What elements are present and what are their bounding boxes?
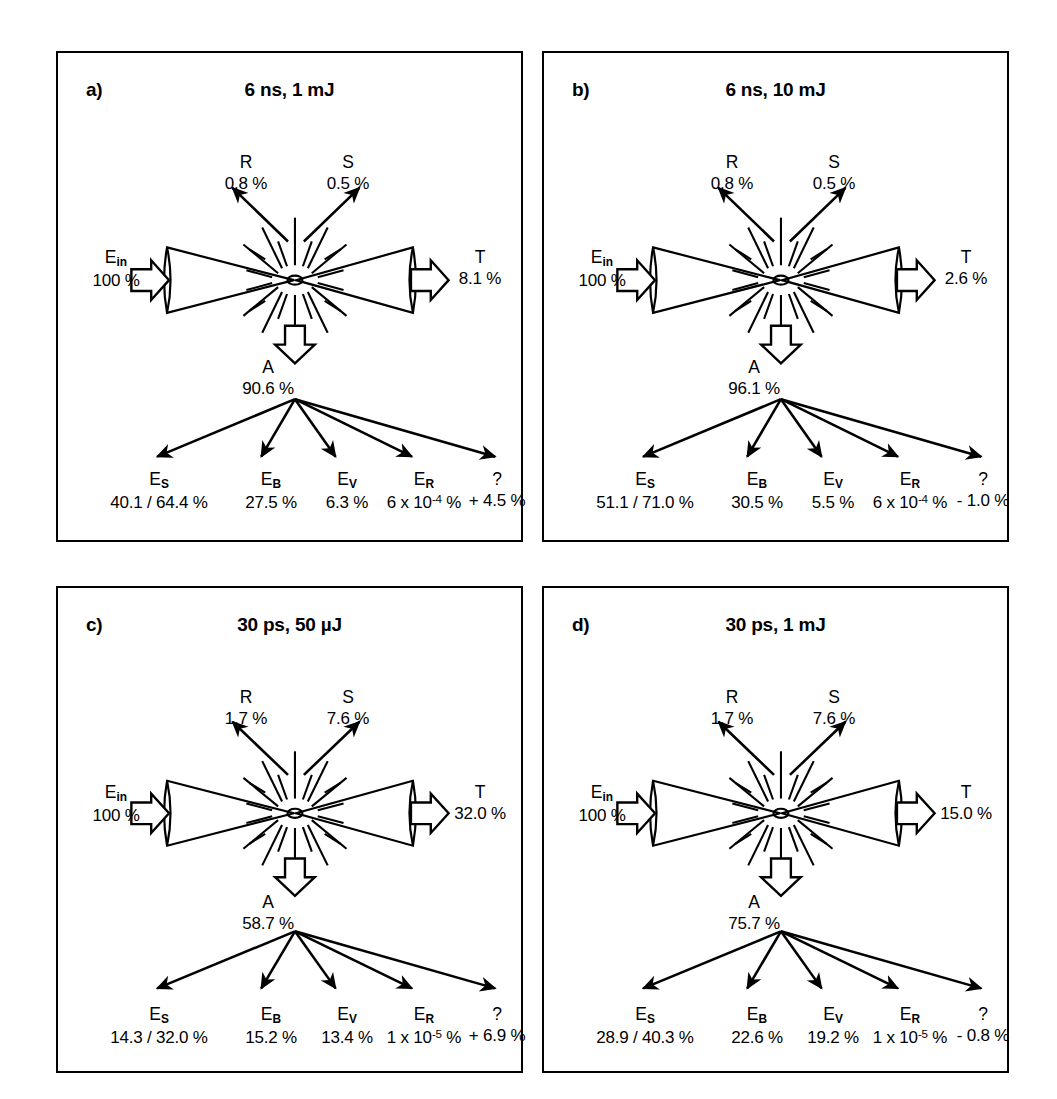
fanout-arrow-eb (747, 931, 781, 988)
input-value: 100 % (68, 270, 164, 292)
absorption-symbol: A (699, 891, 809, 913)
fanout-arrow-unknown (295, 399, 495, 457)
label-channel-unknown: ? + 4.5 % (466, 468, 528, 512)
scatter-symbol: S (308, 151, 388, 173)
panel-title: 6 ns, 10 mJ (544, 79, 1007, 101)
reflection-symbol: R (206, 686, 286, 708)
fanout-arrow-er (295, 399, 412, 457)
fanout-arrow-eb (261, 931, 295, 988)
fanout-arrow-er (295, 931, 412, 988)
reflection-value: 1.7 % (206, 708, 286, 730)
focused-beam-hourglass-icon (164, 781, 416, 846)
label-channel-er: ER 6 x 10-4 % (858, 468, 962, 514)
plasma-starburst-icon (729, 218, 832, 343)
channel-value: - 1.0 % (952, 490, 1014, 512)
panel-d: d) 30 ps, 1 mJ (542, 586, 1009, 1073)
scatter-arrow (790, 188, 846, 242)
absorption-value: 75.7 % (699, 913, 809, 935)
label-reflection: R 1.7 % (692, 686, 772, 730)
fanout-arrow-es (643, 399, 781, 457)
label-input-energy: Ein 100 % (554, 246, 650, 292)
input-symbol: Ein (554, 781, 650, 805)
label-absorption: A 96.1 % (699, 356, 809, 400)
channel-value: 40.1 / 64.4 % (96, 492, 222, 514)
focused-beam-hourglass-icon (650, 781, 902, 846)
fanout-arrow-er (781, 399, 898, 457)
channel-symbol: ? (466, 1003, 528, 1025)
fanout-arrow-unknown (295, 931, 495, 988)
label-channel-eb: EB 15.2 % (230, 1003, 312, 1049)
reflection-symbol: R (692, 151, 772, 173)
label-channel-es: ES 51.1 / 71.0 % (582, 468, 708, 514)
channel-symbol: EB (716, 1003, 798, 1027)
channel-value: 22.6 % (716, 1027, 798, 1049)
panel-title: 6 ns, 1 mJ (58, 79, 521, 101)
figure-canvas: a) 6 ns, 1 mJ (0, 0, 1057, 1099)
focused-beam-hourglass-icon (650, 247, 902, 312)
label-channel-eb: EB 27.5 % (230, 468, 312, 514)
label-input-energy: Ein 100 % (554, 781, 650, 827)
panel-graphics (544, 588, 1007, 1071)
input-value: 100 % (68, 805, 164, 827)
scatter-value: 0.5 % (308, 173, 388, 195)
fanout-arrow-ev (295, 931, 336, 988)
label-scatter: S 7.6 % (308, 686, 388, 730)
channel-value: 30.5 % (716, 492, 798, 514)
transmission-value: 32.0 % (440, 803, 520, 825)
scatter-value: 0.5 % (794, 173, 874, 195)
channel-symbol: ES (582, 1003, 708, 1027)
channel-symbol: ES (96, 468, 222, 492)
scatter-symbol: S (308, 686, 388, 708)
plasma-starburst-icon (243, 218, 346, 343)
label-channel-er: ER 1 x 10-5 % (858, 1003, 962, 1049)
channel-value: 1 x 10-5 % (858, 1027, 962, 1049)
label-transmission: T 2.6 % (926, 246, 1006, 290)
label-reflection: R 1.7 % (206, 686, 286, 730)
label-channel-er: ER 6 x 10-4 % (372, 468, 476, 514)
plasma-starburst-icon (729, 751, 832, 875)
channel-symbol: ER (372, 1003, 476, 1027)
panel-c: c) 30 ps, 50 µJ (56, 586, 523, 1073)
absorption-value: 90.6 % (213, 378, 323, 400)
transmission-value: 8.1 % (440, 268, 520, 290)
transmission-symbol: T (926, 246, 1006, 268)
focal-spot (288, 276, 303, 285)
transmission-symbol: T (440, 781, 520, 803)
reflection-arrow (718, 188, 774, 242)
scatter-value: 7.6 % (794, 708, 874, 730)
channel-symbol: ER (858, 468, 962, 492)
focal-spot (774, 809, 789, 818)
fanout-arrow-eb (747, 399, 781, 457)
absorption-symbol: A (213, 891, 323, 913)
reflection-value: 0.8 % (206, 173, 286, 195)
channel-value: 1 x 10-5 % (372, 1027, 476, 1049)
channel-symbol: EB (230, 1003, 312, 1027)
reflection-value: 0.8 % (692, 173, 772, 195)
input-symbol: Ein (68, 781, 164, 805)
reflection-value: 1.7 % (692, 708, 772, 730)
label-channel-es: ES 28.9 / 40.3 % (582, 1003, 708, 1049)
absorption-symbol: A (699, 356, 809, 378)
transmission-value: 15.0 % (926, 803, 1006, 825)
label-channel-eb: EB 30.5 % (716, 468, 798, 514)
transmission-value: 2.6 % (926, 268, 1006, 290)
channel-value: + 4.5 % (466, 490, 528, 512)
label-input-energy: Ein 100 % (68, 246, 164, 292)
fanout-arrow-er (781, 931, 898, 988)
channel-value: 28.9 / 40.3 % (582, 1027, 708, 1049)
focal-spot (774, 276, 789, 285)
channel-value: 27.5 % (230, 492, 312, 514)
label-transmission: T 8.1 % (440, 246, 520, 290)
label-absorption: A 58.7 % (213, 891, 323, 935)
absorption-symbol: A (213, 356, 323, 378)
input-symbol: Ein (68, 246, 164, 270)
panel-a: a) 6 ns, 1 mJ (56, 51, 523, 542)
channel-symbol: ES (582, 468, 708, 492)
panel-graphics (544, 53, 1007, 540)
input-symbol: Ein (554, 246, 650, 270)
fanout-arrow-unknown (781, 931, 981, 988)
label-channel-unknown: ? - 1.0 % (952, 468, 1014, 512)
input-value: 100 % (554, 805, 650, 827)
fanout-arrow-ev (295, 399, 336, 457)
fanout-arrow-es (157, 399, 295, 457)
